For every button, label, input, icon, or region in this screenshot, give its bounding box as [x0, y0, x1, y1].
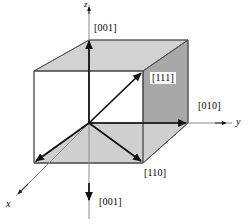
cube-diagram-svg [0, 0, 252, 224]
direction-label-111: [111] [150, 72, 176, 84]
direction-label-001-negative: [001] [99, 197, 122, 207]
x-axis-label: x [6, 199, 11, 209]
direction-label-010: [010] [198, 101, 221, 111]
direction-label-001-positive: [001] [94, 23, 117, 33]
vector-111 [89, 73, 141, 123]
crystal-direction-figure: z y x [001] [111] [010] [110] [001] [0, 0, 252, 224]
direction-label-110: [110] [144, 168, 166, 178]
y-axis-label: y [236, 117, 241, 127]
x-axis-arrowhead [18, 184, 28, 194]
z-axis-label: z [84, 0, 88, 9]
